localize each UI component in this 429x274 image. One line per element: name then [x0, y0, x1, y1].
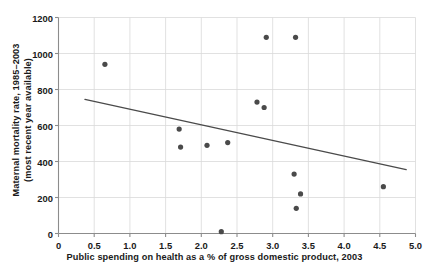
trend-line: [85, 99, 406, 169]
gridlines: [59, 18, 416, 234]
data-point: [262, 105, 267, 110]
data-point: [254, 100, 259, 105]
data-point: [298, 191, 303, 196]
data-point: [102, 62, 107, 67]
data-point: [294, 206, 299, 211]
data-point: [177, 127, 182, 132]
data-point: [225, 140, 230, 145]
data-point: [381, 184, 386, 189]
data-point: [264, 35, 269, 40]
data-point: [178, 145, 183, 150]
data-point: [293, 35, 298, 40]
tick-marks: [55, 18, 416, 238]
scatter-chart-figure: Maternal mortality rate, 1985–2003 (most…: [0, 0, 429, 274]
data-point: [204, 143, 209, 148]
data-point: [292, 172, 297, 177]
plot-area: [0, 0, 429, 274]
data-point: [219, 229, 224, 234]
